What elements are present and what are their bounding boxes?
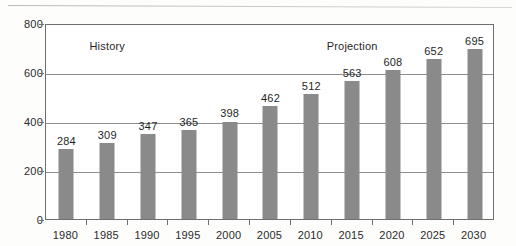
bar-group-1990: 347 <box>128 25 169 219</box>
x-tick-mark-8 <box>372 220 373 225</box>
x-tick-mark-3 <box>167 220 168 225</box>
bar-2005 <box>263 106 278 219</box>
bar-value-label-2005: 462 <box>261 93 280 104</box>
x-tick-mark-9 <box>412 220 413 225</box>
x-tick-mark-2 <box>127 220 128 225</box>
bar-group-2030: 695 <box>454 25 495 219</box>
top-divider-rule <box>8 5 512 8</box>
bar-value-label-1990: 347 <box>139 121 158 132</box>
bar-group-2025: 652 <box>413 25 454 219</box>
bar-group-1980: 284 <box>46 25 87 219</box>
bar-value-label-2025: 652 <box>424 46 443 57</box>
bar-group-1995: 365 <box>168 25 209 219</box>
bar-value-label-2000: 398 <box>220 108 239 119</box>
bar-value-label-2030: 695 <box>465 36 484 47</box>
annotation-projection: Projection <box>327 40 378 52</box>
x-tick-label-2005: 2005 <box>257 229 282 241</box>
x-tick-label-2020: 2020 <box>379 229 404 241</box>
x-tick-mark-10 <box>453 220 454 225</box>
x-tick-label-2030: 2030 <box>461 229 486 241</box>
plot-area: 284309347365398462512563608652695 Histor… <box>45 24 494 220</box>
bar-group-2010: 512 <box>291 25 332 219</box>
y-tick-label-0: 0 <box>5 215 43 226</box>
bar-2010 <box>304 94 319 219</box>
bar-value-label-1995: 365 <box>179 117 198 128</box>
x-tick-label-1985: 1985 <box>94 229 119 241</box>
bar-1990 <box>141 134 156 219</box>
x-tick-mark-1 <box>86 220 87 225</box>
bar-2020 <box>385 70 400 219</box>
bar-value-label-2010: 512 <box>302 81 321 92</box>
x-tick-label-2015: 2015 <box>338 229 363 241</box>
y-tick-mark-800 <box>39 24 44 25</box>
y-tick-mark-200 <box>39 171 44 172</box>
x-tick-mark-6 <box>290 220 291 225</box>
y-tick-mark-0 <box>39 220 44 221</box>
annotation-history: History <box>89 40 125 52</box>
y-tick-mark-400 <box>39 122 44 123</box>
bar-value-label-1985: 309 <box>98 130 117 141</box>
bar-1980 <box>59 149 74 219</box>
bar-series: 284309347365398462512563608652695 <box>46 25 493 219</box>
y-tick-label-800: 800 <box>5 19 43 30</box>
bar-1995 <box>181 130 196 219</box>
bar-value-label-2015: 563 <box>343 68 362 79</box>
bar-2025 <box>426 59 441 219</box>
x-tick-label-2000: 2000 <box>216 229 241 241</box>
y-tick-label-400: 400 <box>5 117 43 128</box>
y-tick-mark-600 <box>39 73 44 74</box>
bar-value-label-2020: 608 <box>383 57 402 68</box>
bar-1985 <box>100 143 115 219</box>
x-tick-label-1995: 1995 <box>175 229 200 241</box>
bar-2015 <box>345 81 360 219</box>
x-tick-label-1990: 1990 <box>134 229 159 241</box>
x-tick-mark-4 <box>208 220 209 225</box>
bar-group-2020: 608 <box>373 25 414 219</box>
bar-2000 <box>222 122 237 220</box>
x-tick-mark-5 <box>249 220 250 225</box>
bar-chart-figure: 0200400600800 28430934736539846251256360… <box>0 0 516 246</box>
x-axis: 1980198519901995200020052010201520202025… <box>45 220 494 246</box>
bar-group-1985: 309 <box>87 25 128 219</box>
x-tick-label-2025: 2025 <box>420 229 445 241</box>
x-tick-label-2010: 2010 <box>298 229 323 241</box>
bar-group-2005: 462 <box>250 25 291 219</box>
x-tick-label-1980: 1980 <box>53 229 78 241</box>
y-tick-label-600: 600 <box>5 68 43 79</box>
y-axis: 0200400600800 <box>0 24 43 220</box>
bar-group-2000: 398 <box>209 25 250 219</box>
bar-group-2015: 563 <box>332 25 373 219</box>
y-tick-label-200: 200 <box>5 166 43 177</box>
bar-value-label-1980: 284 <box>57 136 76 147</box>
x-tick-mark-7 <box>331 220 332 225</box>
bar-2030 <box>467 49 482 219</box>
